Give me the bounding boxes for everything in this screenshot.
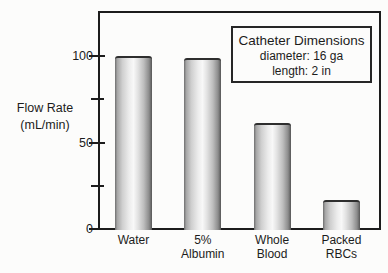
bar-whole-blood — [254, 123, 291, 230]
bar-packed-rbcs — [323, 200, 360, 230]
y-tick-label-0: 0 — [53, 221, 93, 237]
bar-5-albumin — [184, 58, 221, 230]
annotation-length: length: 2 in — [233, 64, 370, 79]
y-axis-label: Flow Rate (mL/min) — [4, 100, 86, 134]
category-label-packed-rbcs: Packed RBCs — [305, 234, 377, 261]
annotation-diameter: diameter: 16 ga — [233, 49, 370, 64]
annotation-title: Catheter Dimensions — [233, 32, 370, 49]
category-label-5-albumin: 5% Albumin — [167, 234, 239, 261]
y-tick-25 — [91, 185, 104, 187]
category-label-whole-blood: Whole Blood — [236, 234, 308, 261]
y-tick-label-50: 50 — [53, 135, 93, 151]
bar-chart-figure: Flow Rate (mL/min) Catheter Dimensions d… — [0, 0, 388, 273]
catheter-dimensions-box: Catheter Dimensions diameter: 16 ga leng… — [231, 26, 372, 83]
bar-water — [115, 56, 152, 230]
y-tick-75 — [91, 98, 104, 100]
category-label-water: Water — [98, 234, 170, 248]
y-tick-label-100: 100 — [53, 48, 93, 64]
